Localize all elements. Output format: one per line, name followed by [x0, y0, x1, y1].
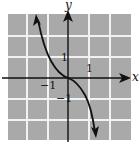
- graph: x y 1 −1 1 −1: [0, 0, 140, 144]
- tick-label-x-1: 1: [86, 62, 93, 75]
- tick-label-y-neg1: −1: [56, 92, 72, 105]
- y-axis-label: y: [64, 0, 72, 12]
- tick-label-y-1: 1: [61, 51, 68, 64]
- x-axis-label: x: [132, 70, 139, 84]
- tick-label-x-neg1: −1: [40, 79, 56, 92]
